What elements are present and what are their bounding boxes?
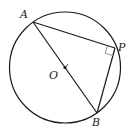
label-p: P: [117, 41, 126, 54]
geometry-diagram: A P O B: [0, 0, 130, 130]
chord-ap: [33, 22, 115, 48]
label-b: B: [91, 116, 100, 129]
diagram-canvas: A P O B: [0, 0, 130, 130]
label-o: O: [49, 69, 58, 82]
label-a: A: [19, 8, 28, 21]
chord-pb: [97, 48, 115, 113]
